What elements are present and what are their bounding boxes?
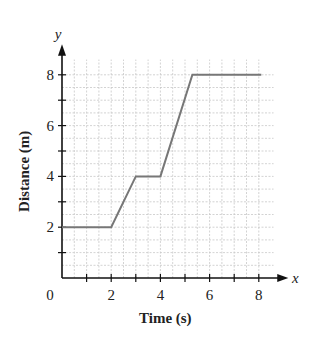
x-tick-label: 8 — [255, 287, 263, 303]
y-axis-symbol: y — [53, 26, 62, 42]
y-tick-label: 2 — [47, 219, 55, 235]
x-tick-label: 2 — [107, 287, 115, 303]
x-axis-arrow-icon — [277, 274, 288, 282]
origin-label: 0 — [46, 287, 54, 303]
x-tick-label: 6 — [206, 287, 214, 303]
distance-time-graph: 246824680xyTime (s)Distance (m) — [0, 0, 310, 352]
x-axis-symbol: x — [291, 270, 299, 286]
x-tick-label: 4 — [157, 287, 165, 303]
y-axis-title: Distance (m) — [16, 131, 33, 212]
y-tick-label: 6 — [47, 118, 55, 134]
y-tick-label: 8 — [47, 67, 55, 83]
y-tick-label: 4 — [47, 168, 55, 184]
y-axis-arrow-icon — [58, 44, 66, 55]
x-axis-title: Time (s) — [139, 310, 192, 327]
chart-container: 246824680xyTime (s)Distance (m) — [0, 0, 310, 352]
